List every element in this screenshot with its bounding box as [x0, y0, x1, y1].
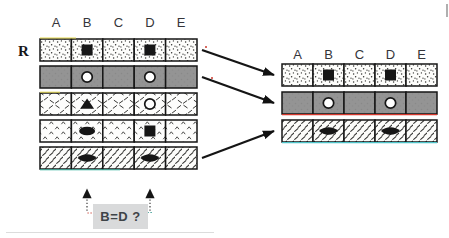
left-grid-row-1-cell-E — [166, 39, 197, 61]
mapping-arrow-2 — [202, 77, 274, 103]
left-col-label-b: B — [83, 15, 92, 30]
left-grid-row-5-cell-A — [40, 147, 71, 169]
mapping-arrow-1 — [202, 50, 274, 75]
right-col-label-b: B — [324, 47, 333, 62]
right-grid-row-2 — [282, 92, 437, 114]
column-pointer-b — [82, 189, 94, 214]
right-col-label-a: A — [293, 47, 302, 62]
right-grid-row-3-cell-A — [282, 120, 313, 142]
white-circle-glyph — [385, 98, 395, 108]
right-col-label-d: D — [386, 47, 395, 62]
right-grid — [282, 64, 437, 142]
left-row-label: R — [18, 43, 29, 59]
right-grid-row-1 — [282, 64, 437, 86]
left-col-label-c: C — [114, 15, 123, 30]
right-grid-row-2-cell-C — [344, 92, 375, 114]
figure-canvas: A B C D E R A B C D E B=D ? — [0, 0, 449, 238]
left-grid-row-3-cell-C — [103, 93, 134, 115]
left-grid-row-3-cell-E — [166, 93, 197, 115]
left-grid-row-2-cell-E — [166, 66, 197, 88]
left-col-label-d: D — [145, 15, 154, 30]
scan-artifacts — [6, 4, 447, 233]
mapping-arrows — [202, 50, 274, 158]
red-speck — [211, 77, 213, 79]
left-grid-row-1 — [40, 39, 197, 61]
outline-circle-glyph — [145, 99, 155, 109]
left-grid-row-4-cell-A — [40, 120, 71, 142]
left-grid-row-4-cell-C — [103, 120, 134, 142]
black-square-glyph — [323, 70, 334, 81]
right-grid-row-3-cell-C — [344, 120, 375, 142]
left-grid-row-1-cell-C — [103, 39, 134, 61]
question-label: B=D ? — [100, 209, 140, 224]
left-grid-row-5 — [40, 147, 197, 169]
mapping-arrow-3 — [202, 131, 274, 158]
left-grid-row-4 — [40, 120, 197, 142]
white-circle-glyph — [323, 98, 333, 108]
question-box: B=D ? — [93, 204, 148, 229]
black-square-glyph — [144, 45, 155, 56]
left-grid — [40, 39, 197, 169]
white-circle-glyph — [82, 72, 92, 82]
matching-diagram: A B C D E R A B C D E B=D ? — [0, 0, 449, 238]
white-circle-glyph — [145, 72, 155, 82]
right-col-label-c: C — [355, 47, 364, 62]
left-grid-row-1-cell-A — [40, 39, 71, 61]
left-grid-row-4-cell-E — [166, 120, 197, 142]
left-grid-row-2 — [40, 66, 197, 88]
left-grid-row-3-cell-A — [40, 93, 71, 115]
black-square-glyph — [82, 45, 93, 56]
right-grid-row-1-cell-C — [344, 64, 375, 86]
black-ellipse-glyph — [79, 127, 95, 136]
right-grid-row-3 — [282, 120, 437, 142]
right-grid-row-1-cell-E — [406, 64, 437, 86]
right-col-label-e: E — [417, 47, 426, 62]
right-grid-row-2-cell-E — [406, 92, 437, 114]
right-grid-row-2-cell-A — [282, 92, 313, 114]
left-grid-row-3 — [40, 93, 197, 115]
left-grid-row-2-cell-A — [40, 66, 71, 88]
up-arrow-icon — [145, 189, 154, 199]
up-arrow-icon — [82, 189, 91, 199]
left-grid-row-2-cell-C — [103, 66, 134, 88]
red-speck — [205, 46, 207, 48]
black-square-glyph — [144, 126, 155, 137]
left-col-label-a: A — [52, 15, 61, 30]
left-grid-row-5-cell-C — [103, 147, 134, 169]
left-col-label-e: E — [177, 15, 186, 30]
right-grid-row-3-cell-E — [406, 120, 437, 142]
black-square-glyph — [385, 70, 396, 81]
right-grid-row-1-cell-A — [282, 64, 313, 86]
left-grid-row-5-cell-E — [166, 147, 197, 169]
